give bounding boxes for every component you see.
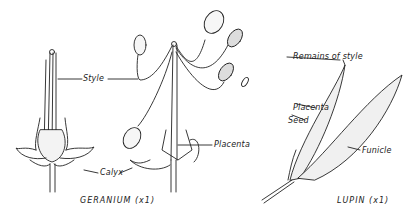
drawing — [0, 0, 416, 215]
geranium-dehisced-fruit — [120, 7, 250, 192]
label-geranium-style: Style — [83, 74, 104, 83]
lupin-pods — [262, 60, 402, 203]
label-lupin-seed: Seed — [288, 116, 309, 125]
botanical-figure: Style Calyx Placenta GERANIUM (x1) Remai… — [0, 0, 416, 215]
label-geranium-placenta: Placenta — [214, 140, 250, 149]
label-lupin-placenta: Placenta — [293, 103, 329, 112]
caption-lupin: LUPIN (x1) — [337, 196, 389, 205]
geranium-intact-fruit — [16, 50, 94, 193]
label-lupin-remains-of-style: Remains of style — [293, 52, 363, 61]
label-geranium-calyx: Calyx — [100, 168, 123, 177]
label-lupin-funicle: Funicle — [362, 146, 392, 155]
caption-geranium: GERANIUM (x1) — [80, 196, 155, 205]
